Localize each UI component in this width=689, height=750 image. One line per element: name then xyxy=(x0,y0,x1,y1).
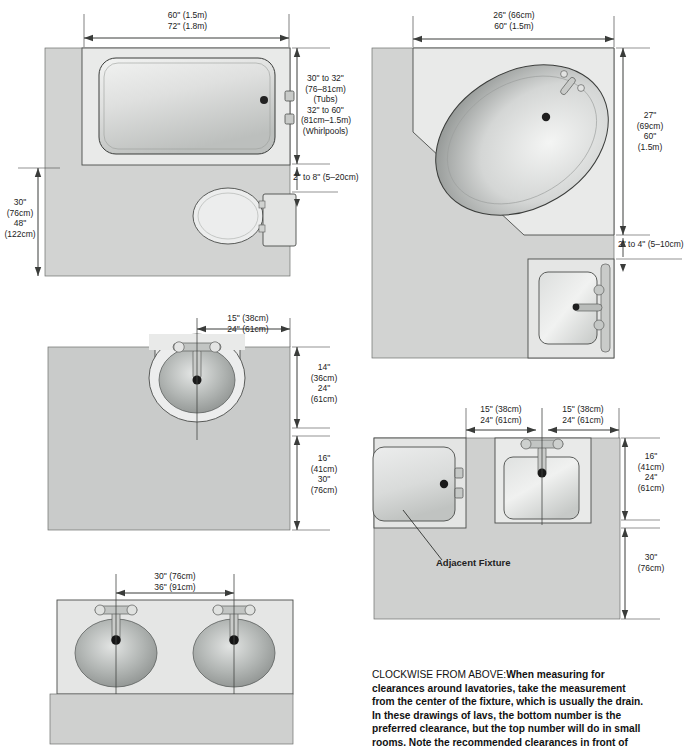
diagram-double-lav-plan: 30" (76cm) 36" (91cm) xyxy=(0,560,350,744)
dim-lav-front: 14" (36cm) 24" (61cm) xyxy=(301,362,347,404)
caption-block: CLOCKWISE FROM ABOVE:When measuring for … xyxy=(372,668,684,750)
diagram-lav-adjacent-plan: 15" (38cm) 24" (61cm) 15" (38cm) 24" (61… xyxy=(360,400,689,650)
arrow-up-icon xyxy=(294,347,300,356)
bathtub xyxy=(99,58,275,154)
caption-line-5: preferred clearance, but the top number … xyxy=(372,722,684,736)
arrow-down-icon xyxy=(294,521,300,530)
dim-corner-tub-depth: 27" (69cm) 60" (1.5m) xyxy=(626,110,674,152)
dim-tub-depth: 30" to 32" (76–81cm) (Tubs) 32" to 60" (… xyxy=(301,73,350,136)
arrow-down-icon xyxy=(622,511,628,520)
arrow-up-icon xyxy=(35,168,41,177)
arrow-up-icon xyxy=(294,436,300,445)
arrow-left-icon xyxy=(413,36,422,42)
adjacent-fixture-annotation: Adjacent Fixture xyxy=(436,558,510,569)
diagram-tub-toilet-plan: 60" (1.5m) 72" (1.8m) 30" to 32" (76–81c… xyxy=(0,0,350,300)
arrow-down-icon xyxy=(294,419,300,428)
dim-lav-floor: 16" (41cm) 30" (76cm) xyxy=(301,453,347,495)
caption-line-2: clearances around lavatories, take the m… xyxy=(372,682,684,696)
toilet-hinge-left-icon xyxy=(259,201,265,208)
arrow-left-icon xyxy=(84,35,93,41)
dim-tub-width: 60" (1.5m) 72" (1.8m) xyxy=(130,10,245,31)
dim-corner-tub-width: 26" (66cm) 60" (1.5m) xyxy=(455,10,573,31)
corner-tub-svg xyxy=(350,0,689,380)
arrow-up-icon xyxy=(620,48,626,57)
caption-line-1: CLOCKWISE FROM ABOVE:When measuring for xyxy=(372,668,684,682)
caption-lead: CLOCKWISE FROM ABOVE: xyxy=(372,669,506,680)
tub-toilet-svg xyxy=(0,0,350,300)
arrow-right-icon xyxy=(527,427,536,433)
arrow-left-icon xyxy=(466,427,475,433)
diagram-corner-tub-plan: 26" (66cm) 60" (1.5m) 27" (69cm) 60" (1.… xyxy=(350,0,689,380)
arrow-down-icon xyxy=(35,267,41,276)
caption-line-3: from the center of the fixture, which is… xyxy=(372,695,684,709)
adjacent-valve-icon xyxy=(455,468,463,478)
diagram-oval-lav-plan: 15" (38cm) 24" (61cm) 14" (36cm) 24" (61… xyxy=(0,310,350,560)
tub-spout-icon xyxy=(285,114,294,124)
dim-lav-right-clearance: 15" (38cm) 24" (61cm) xyxy=(538,404,628,425)
arrow-left-icon xyxy=(548,427,557,433)
arrow-right-icon xyxy=(610,427,619,433)
arrow-down-icon xyxy=(620,226,626,235)
dim-toilet-clearance: 30" (76cm) 48" (122cm) xyxy=(0,197,40,239)
tub-drain-icon xyxy=(542,113,550,121)
lav-adjacent-svg xyxy=(360,400,689,650)
caption-line-6: rooms. Note the recommended clearances i… xyxy=(372,736,684,750)
dim-lav-left-clearance: 15" (38cm) 24" (61cm) xyxy=(456,404,546,425)
caption-line-4: In these drawings of lavs, the bottom nu… xyxy=(372,709,684,723)
dim-corner-lav-gap: 2" to 4" (5–10cm) xyxy=(618,239,684,250)
adjacent-tub-drain-icon xyxy=(440,480,448,488)
tub-drain-icon xyxy=(260,96,268,104)
arrow-right-icon xyxy=(280,35,289,41)
dim-lav-front-clearance: 16" (41cm) 24" (61cm) xyxy=(628,451,674,493)
dim-lav-side: 15" (38cm) 24" (61cm) xyxy=(203,313,293,334)
arrow-up-icon xyxy=(294,48,300,57)
adjacent-spout-icon xyxy=(455,488,463,498)
toilet-bowl xyxy=(193,188,263,244)
toilet-tank xyxy=(263,194,296,246)
dim-double-lav-spacing: 30" (76cm) 36" (91cm) xyxy=(120,571,230,592)
dim-tub-gap: 2" to 8" (5–20cm) xyxy=(293,172,359,183)
arrow-up-icon xyxy=(622,528,628,537)
floor-area xyxy=(50,694,293,744)
arrow-up-icon xyxy=(620,264,626,272)
arrow-right-icon xyxy=(605,36,614,42)
arrow-up-icon xyxy=(622,438,628,447)
toilet-hinge-right-icon xyxy=(259,225,265,232)
arrow-down-icon xyxy=(622,610,628,619)
arrow-down-icon xyxy=(294,155,300,164)
caption-line-1-text: When measuring for xyxy=(506,669,605,680)
tub-valve-icon xyxy=(285,91,294,101)
oval-lav-svg xyxy=(0,310,350,560)
dim-lav-floor-clearance: 30" (76cm) xyxy=(628,552,674,573)
